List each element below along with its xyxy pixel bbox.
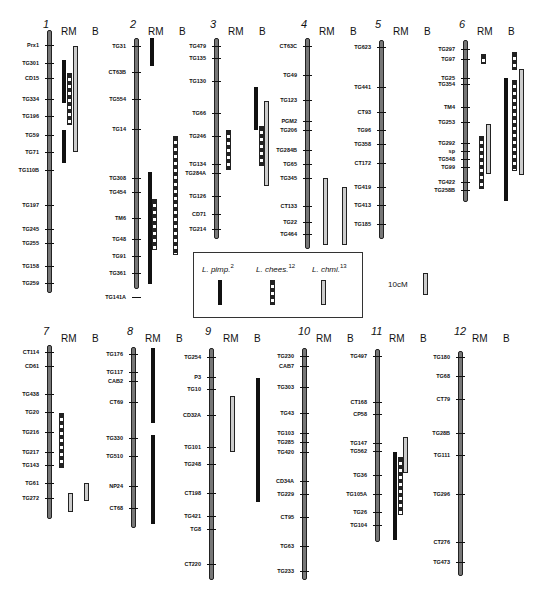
scale-label: 10cM — [388, 280, 408, 289]
marker-label: TG141A — [86, 294, 126, 300]
marker-tick — [377, 144, 386, 145]
marker-tick — [129, 402, 138, 403]
column-header-b: B — [420, 333, 427, 344]
marker-label: TG216 — [0, 429, 39, 435]
introgression-segment-chmi — [323, 178, 328, 245]
marker-tick — [129, 372, 138, 373]
marker-tick — [373, 451, 382, 452]
marker-tick — [212, 164, 221, 165]
marker-tick — [207, 377, 216, 378]
marker-label: TG361 — [86, 270, 126, 276]
marker-tick — [45, 116, 54, 117]
marker-label: CD32A — [161, 412, 201, 418]
marker-tick — [129, 438, 138, 439]
marker-label: TG303 — [254, 384, 294, 390]
legend-label-chmi: L. chmi.13 — [312, 263, 347, 274]
marker-label: TG43 — [254, 410, 294, 416]
marker-tick — [45, 452, 54, 453]
marker-tick — [373, 512, 382, 513]
marker-tick — [45, 152, 54, 153]
marker-label: TG420 — [254, 449, 294, 455]
chromosome-number-12: 12 — [454, 325, 466, 337]
marker-label: TG253 — [415, 119, 455, 125]
chromosome-number-7: 7 — [43, 325, 49, 337]
column-header-rm: RM — [472, 333, 488, 344]
marker-tick — [45, 266, 54, 267]
marker-tick — [456, 455, 465, 456]
column-header-rm: RM — [148, 26, 164, 37]
marker-tick — [45, 229, 54, 230]
marker-tick — [461, 122, 470, 123]
marker-label: TG65 — [257, 161, 297, 167]
marker-label: TG96 — [331, 127, 371, 133]
legend-label-pimp: L. pimp.2 — [202, 263, 234, 274]
marker-tick — [303, 130, 312, 131]
column-header-rm: RM — [393, 26, 409, 37]
marker-label: TG301 — [0, 60, 39, 66]
column-header-b: B — [179, 26, 186, 37]
marker-label: CT63C — [257, 43, 297, 49]
marker-label: TG185 — [331, 221, 371, 227]
introgression-segment-chmi — [403, 437, 408, 473]
marker-label: TG143 — [0, 462, 39, 468]
marker-label: TG22 — [257, 219, 297, 225]
marker-tick — [45, 283, 54, 284]
marker-label: CD15 — [0, 75, 39, 81]
column-header-b: B — [92, 333, 99, 344]
marker-tick — [45, 394, 54, 395]
column-header-rm: RM — [61, 26, 77, 37]
scale-bar — [423, 273, 428, 295]
marker-label: TG101 — [161, 444, 201, 450]
marker-tick — [212, 58, 221, 59]
marker-tick — [207, 564, 216, 565]
marker-tick — [207, 415, 216, 416]
marker-label: TM4 — [415, 104, 455, 110]
marker-tick — [300, 571, 309, 572]
marker-label: TG473 — [410, 559, 450, 565]
marker-label: TG134 — [166, 161, 206, 167]
marker-label: TG230 — [254, 353, 294, 359]
marker-tick — [303, 150, 312, 151]
chromosome-number-8: 8 — [127, 325, 133, 337]
introgression-segment-chmi — [519, 69, 524, 175]
marker-label: CD34A — [254, 478, 294, 484]
marker-label: TG36 — [327, 472, 367, 478]
marker-tick — [303, 75, 312, 76]
marker-label: TG66 — [166, 110, 206, 116]
marker-tick — [456, 357, 465, 358]
marker-tick — [207, 357, 216, 358]
marker-label: TG479 — [166, 43, 206, 49]
marker-label: TG99 — [415, 164, 455, 170]
marker-label: CT276 — [410, 539, 450, 545]
marker-label: Prx1 — [0, 42, 39, 48]
marker-tick — [373, 525, 382, 526]
marker-label: TG292 — [415, 140, 455, 146]
marker-label: TG358 — [331, 141, 371, 147]
column-header-b: B — [503, 333, 510, 344]
marker-label: CT69 — [83, 399, 123, 405]
chromosome-bar-1 — [47, 30, 52, 293]
marker-tick — [300, 442, 309, 443]
marker-label: CT133 — [257, 203, 297, 209]
marker-tick — [300, 517, 309, 518]
marker-label: CP58 — [327, 411, 367, 417]
chromosome-bar-6 — [463, 40, 468, 202]
marker-tick — [129, 354, 138, 355]
marker-label: TG206 — [257, 127, 297, 133]
marker-label: TG623 — [331, 44, 371, 50]
marker-label: TG217 — [0, 449, 39, 455]
chromosome-number-9: 9 — [205, 325, 211, 337]
marker-label: CT168 — [327, 399, 367, 405]
marker-tick — [45, 170, 54, 171]
marker-label: TG272 — [0, 495, 39, 501]
marker-label: NP24 — [83, 483, 123, 489]
introgression-segment-chmi — [73, 46, 78, 152]
marker-label: TG284B — [257, 147, 297, 153]
marker-label: CD71 — [166, 211, 206, 217]
marker-label: TG103 — [254, 430, 294, 436]
introgression-segment-pimp — [393, 452, 397, 540]
marker-tick — [303, 234, 312, 235]
marker-tick — [456, 399, 465, 400]
marker-label: CT63B — [86, 69, 126, 75]
marker-tick — [212, 214, 221, 215]
